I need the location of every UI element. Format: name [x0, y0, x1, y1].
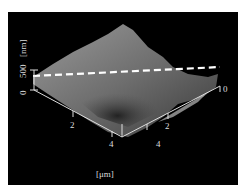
afm-image-panel: 0 500 [nm] 2 4 0 2 4 [μm] [8, 12, 238, 185]
lateral-unit-label: [μm] [96, 169, 114, 179]
x-tick-2: 2 [70, 120, 75, 130]
x-tick-4: 4 [109, 139, 114, 149]
z-tick-500: 500 [18, 64, 28, 78]
y-tick-2: 2 [165, 121, 170, 131]
afm-surface-plot: 0 500 [nm] 2 4 0 2 4 [μm] [8, 12, 238, 185]
y-tick-0: 0 [223, 84, 228, 94]
z-tick-0: 0 [18, 90, 28, 95]
z-axis-label: [nm] [18, 40, 28, 58]
y-tick-4: 4 [156, 139, 161, 149]
